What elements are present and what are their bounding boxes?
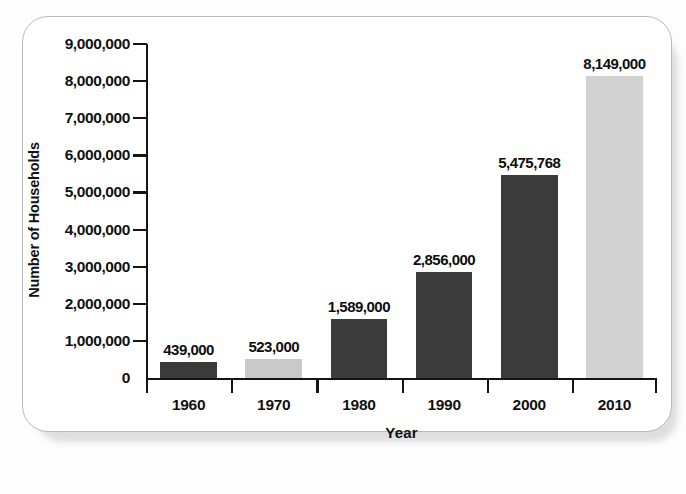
y-axis-tick-labels: 01,000,0002,000,0003,000,0004,000,0005,0… bbox=[6, 0, 130, 494]
bar bbox=[586, 76, 643, 378]
y-axis-tick-label: 2,000,000 bbox=[12, 295, 130, 313]
y-axis-tick-mark bbox=[133, 154, 147, 156]
y-axis-tick-label: 4,000,000 bbox=[12, 221, 130, 239]
y-axis-line bbox=[146, 44, 148, 380]
y-axis-tick-mark bbox=[133, 266, 147, 268]
bar-chart: Number of Households 01,000,0002,000,000… bbox=[0, 0, 686, 494]
x-axis-tick-mark bbox=[655, 380, 657, 393]
bar-rect bbox=[416, 272, 473, 378]
bar-value-label: 5,475,768 bbox=[498, 154, 560, 171]
y-axis-tick-mark bbox=[133, 303, 147, 305]
x-axis-title: Year bbox=[146, 424, 657, 441]
y-axis-tick-label: 9,000,000 bbox=[12, 35, 130, 53]
x-axis-tick-mark bbox=[402, 380, 404, 393]
x-axis-category-label: 2000 bbox=[487, 396, 572, 414]
y-axis-tick-label: 5,000,000 bbox=[12, 183, 130, 201]
x-axis-tick-mark bbox=[572, 380, 574, 393]
bar-rect bbox=[586, 76, 643, 378]
y-axis-tick-mark bbox=[133, 117, 147, 119]
y-axis-tick-mark bbox=[133, 80, 147, 82]
x-axis-tick-mark bbox=[316, 380, 318, 393]
y-axis-tick-label: 1,000,000 bbox=[12, 332, 130, 350]
y-axis-tick-mark bbox=[133, 43, 147, 45]
y-axis-tick-label: 3,000,000 bbox=[12, 258, 130, 276]
bar bbox=[416, 272, 473, 378]
x-axis-category-label: 1970 bbox=[231, 396, 316, 414]
page-background: Number of Households 01,000,0002,000,000… bbox=[0, 0, 686, 494]
y-axis-tick-label: 8,000,000 bbox=[12, 72, 130, 90]
x-axis-category-label: 1990 bbox=[402, 396, 487, 414]
y-axis-tick-label: 6,000,000 bbox=[12, 146, 130, 164]
y-axis-tick-label: 7,000,000 bbox=[12, 109, 130, 127]
bar bbox=[160, 362, 217, 378]
bar-value-label: 1,589,000 bbox=[328, 298, 390, 315]
x-axis-category-label: 2010 bbox=[572, 396, 657, 414]
x-axis-tick-mark bbox=[146, 380, 148, 393]
x-axis-tick-mark bbox=[487, 380, 489, 393]
bar-rect bbox=[160, 362, 217, 378]
bar-rect bbox=[245, 359, 302, 378]
bar-value-label: 439,000 bbox=[163, 341, 214, 358]
x-axis-tick-mark bbox=[231, 380, 233, 393]
y-axis-tick-mark bbox=[133, 340, 147, 342]
bar-rect bbox=[501, 175, 558, 378]
bar-rect bbox=[331, 319, 388, 378]
y-axis-tick-label: 0 bbox=[12, 369, 130, 387]
bar bbox=[245, 359, 302, 378]
y-axis-tick-mark bbox=[133, 229, 147, 231]
bar-value-label: 8,149,000 bbox=[583, 55, 645, 72]
x-axis-category-label: 1980 bbox=[316, 396, 401, 414]
x-axis-category-label: 1960 bbox=[146, 396, 231, 414]
bar bbox=[331, 319, 388, 378]
bar bbox=[501, 175, 558, 378]
bar-value-label: 2,856,000 bbox=[413, 251, 475, 268]
bar-value-label: 523,000 bbox=[248, 338, 299, 355]
y-axis-tick-mark bbox=[133, 191, 147, 193]
